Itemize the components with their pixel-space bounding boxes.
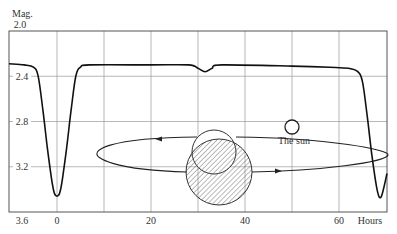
y-axis-label: Mag. [12,8,33,19]
y-tick-label: 2.0 [14,19,27,30]
light-curve-chart: 2.02.42.83.23.60204060Mag.Hours The sun [0,0,397,234]
y-tick-label: 2.8 [16,116,29,127]
y-tick-label: 3.2 [16,161,29,172]
orbit-diagram: The sun [97,120,388,205]
sun-icon [285,120,299,134]
x-tick-label: 40 [240,215,250,226]
orbit-arrow-left [155,137,162,142]
x-tick-label: 60 [334,215,344,226]
y-tick-label: 3.6 [16,215,29,226]
orbit-arrow-right [275,169,282,174]
sun-label: The sun [278,135,310,146]
eclipsing-star [186,139,252,205]
y-tick-label: 2.4 [16,71,29,82]
x-tick-label: 0 [55,215,60,226]
x-axis-label: Hours [358,215,383,226]
x-tick-label: 20 [146,215,156,226]
